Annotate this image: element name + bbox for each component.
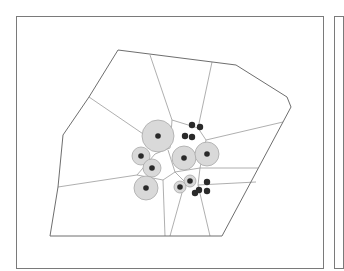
- voronoi-edge: [206, 122, 283, 140]
- site-point: [196, 187, 202, 193]
- site-point: [138, 153, 144, 159]
- site-point: [182, 133, 188, 139]
- site-point: [181, 155, 187, 161]
- voronoi-edge: [58, 175, 137, 187]
- site-point: [177, 184, 183, 190]
- voronoi-edge: [150, 55, 172, 120]
- voronoi-edge: [163, 172, 175, 180]
- site-point: [204, 151, 210, 157]
- site-point: [149, 165, 155, 171]
- voronoi-edge: [163, 180, 165, 236]
- site-point: [187, 178, 193, 184]
- site-point: [204, 179, 210, 185]
- voronoi-edge: [198, 168, 200, 185]
- site-point: [189, 122, 195, 128]
- site-point: [197, 124, 203, 130]
- site-point: [189, 134, 195, 140]
- voronoi-edge: [198, 62, 212, 128]
- site-point: [204, 188, 210, 194]
- site-point: [143, 185, 149, 191]
- voronoi-edge: [175, 172, 185, 182]
- site-point: [155, 133, 161, 139]
